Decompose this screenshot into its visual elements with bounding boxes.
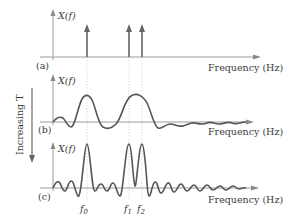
x-axis-label: Frequency (Hz) — [208, 126, 283, 137]
impulse-f1 — [126, 24, 132, 57]
x-axis-arrow-icon — [253, 55, 261, 60]
y-axis-arrow-icon — [51, 9, 56, 16]
x-axis-arrow-icon — [246, 120, 254, 125]
impulse-arrow-icon — [126, 24, 132, 32]
y-axis-arrow-icon — [51, 74, 56, 81]
increasing-t-indicator: Increasing T — [14, 88, 35, 163]
y-axis-label: X(f) — [57, 75, 76, 86]
impulse-f2 — [139, 24, 145, 57]
panel-a: X(f) Frequency (Hz) (a) — [36, 9, 283, 73]
freq-label-f2: f2 — [136, 203, 146, 216]
impulse-f0 — [84, 24, 90, 57]
down-arrow-icon — [29, 155, 35, 163]
x-axis-label: Frequency (Hz) — [208, 62, 283, 73]
freq-label-f1: f1 — [123, 203, 132, 216]
freq-label-f0: f0 — [79, 203, 89, 216]
x-axis-label: Frequency (Hz) — [208, 194, 283, 205]
x-axis-arrow-icon — [251, 186, 259, 191]
increasing-t-label: Increasing T — [14, 94, 25, 155]
panel-label: (b) — [38, 124, 52, 135]
panel-b: X(f) Frequency (Hz) (b) — [38, 74, 283, 137]
y-axis-label: X(f) — [57, 143, 76, 154]
y-axis-label: X(f) — [57, 10, 76, 21]
panel-c: X(f) Frequency (Hz) (c) f0 f1 f2 — [38, 142, 283, 216]
panel-label: (c) — [38, 191, 51, 202]
impulse-arrow-icon — [84, 24, 90, 32]
spectrum-figure: X(f) Frequency (Hz) (a) X(f) — [0, 0, 289, 219]
y-axis-arrow-icon — [51, 142, 56, 149]
panel-label: (a) — [36, 60, 49, 71]
spectrum-curve — [53, 94, 246, 128]
impulse-arrow-icon — [139, 24, 145, 32]
